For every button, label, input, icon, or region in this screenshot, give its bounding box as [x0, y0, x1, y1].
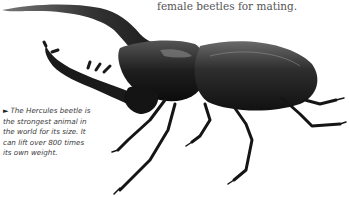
- caption-line-3: the world for its size. It: [3, 127, 86, 136]
- body-text-line: female beetles for mating.: [157, 0, 297, 13]
- caption-line-2: the strongest animal in: [3, 117, 87, 126]
- caption-line-1: The Hercules beetle is: [10, 106, 90, 115]
- hercules-beetle-illustration: [0, 0, 349, 197]
- caption-line-5: its own weight.: [3, 148, 57, 157]
- caption-line-4: can lift over 800 times: [3, 138, 84, 147]
- caption-pointer-icon: ►: [3, 107, 8, 115]
- figure-caption: ►The Hercules beetle is the strongest an…: [3, 106, 103, 159]
